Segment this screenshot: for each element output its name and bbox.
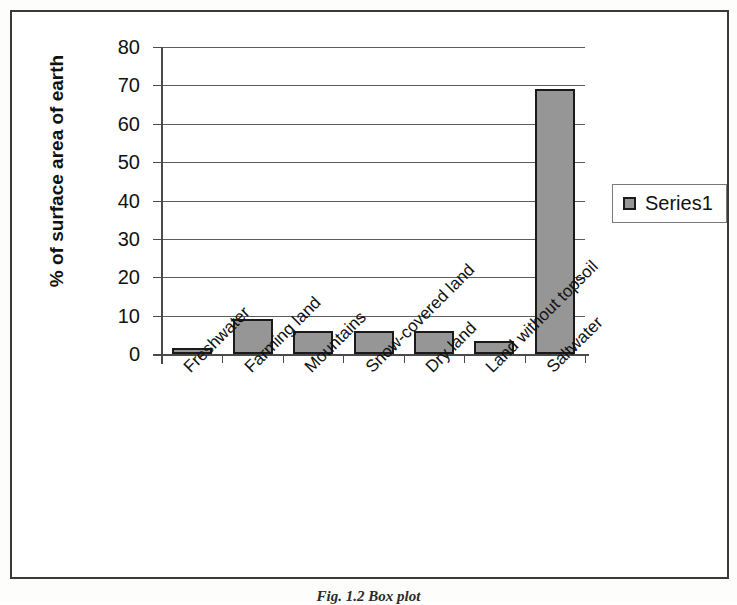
- gridline: [162, 201, 585, 202]
- figure-caption: Fig. 1.2 Box plot: [0, 588, 737, 605]
- gridline: [162, 47, 585, 48]
- gridline: [162, 277, 585, 278]
- y-tick-label: 30: [118, 227, 140, 250]
- y-axis-line: [161, 47, 163, 364]
- legend-label-series1: Series1: [645, 192, 713, 215]
- y-tick-label: 10: [118, 304, 140, 327]
- gridline: [162, 162, 585, 163]
- plot-area: 01020304050607080: [162, 47, 585, 354]
- y-tick-label: 80: [118, 36, 140, 59]
- gridline: [162, 85, 585, 86]
- y-tick-label: 20: [118, 266, 140, 289]
- y-axis-title: % of surface area of earth: [46, 21, 68, 321]
- y-tick-label: 60: [118, 112, 140, 135]
- y-tick-label: 0: [129, 343, 140, 366]
- y-tick-label: 40: [118, 189, 140, 212]
- x-axis-labels: FreshwaterFarming landMountainsSnow-cove…: [162, 357, 722, 547]
- gridline: [162, 239, 585, 240]
- legend: Series1: [612, 184, 727, 223]
- legend-swatch-series1: [623, 197, 636, 210]
- y-tick-label: 50: [118, 151, 140, 174]
- y-tick-label: 70: [118, 74, 140, 97]
- gridline: [162, 124, 585, 125]
- figure-frame: % of surface area of earth 0102030405060…: [10, 10, 729, 579]
